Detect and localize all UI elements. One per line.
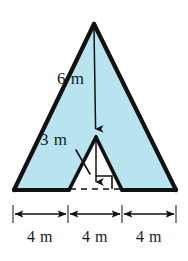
height-label: 6 m [57,70,84,87]
figure-canvas [0,0,188,261]
right-angle-marker-icon [96,176,112,189]
segment-label-1: 4 m [73,229,117,245]
segment-label-2: 4 m [127,229,171,245]
slant-label: 3 m [40,131,67,148]
segment-label-0: 4 m [18,229,62,245]
geometry-figure: 6 m 3 m 4 m 4 m 4 m [0,0,188,261]
